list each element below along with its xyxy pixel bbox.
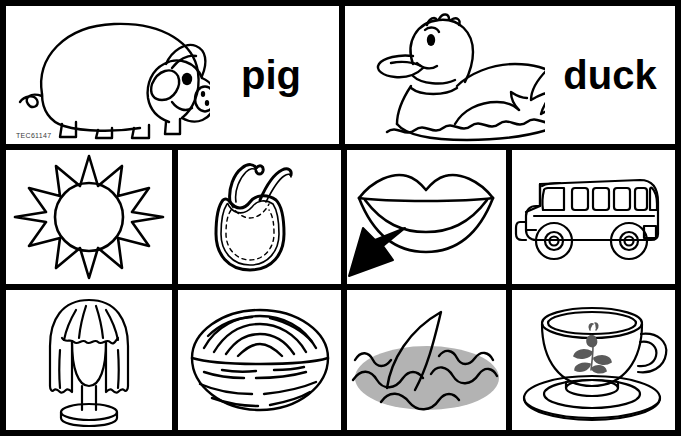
col-divider-row1: [339, 6, 345, 144]
worksheet-sheet: TEC61147 pig: [0, 0, 681, 436]
col-divider-r3-c2: [341, 290, 347, 430]
col-divider-r2-c3: [506, 150, 512, 284]
col-divider-r3-c1: [172, 290, 178, 430]
col-divider-r2-c1: [172, 150, 178, 284]
col-divider-r2-c2: [341, 150, 347, 284]
col-divider-r3-c3: [506, 290, 512, 430]
